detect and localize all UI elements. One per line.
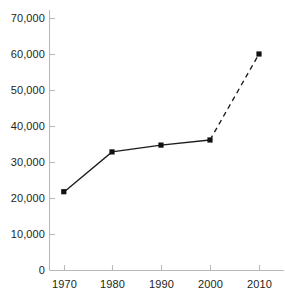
chart-plot-area <box>0 0 285 295</box>
y-axis-label-50000: 50,000 <box>0 85 45 96</box>
y-axis-label-40000: 40,000 <box>0 121 45 132</box>
line-chart: 70,000 60,000 50,000 40,000 30,000 20,00… <box>0 0 285 295</box>
y-axis-label-60000: 60,000 <box>0 49 45 60</box>
x-axis-label-1980: 1980 <box>88 279 137 290</box>
data-point-2000 <box>207 137 212 142</box>
series-line-solid <box>64 140 210 192</box>
y-axis-label-70000: 70,000 <box>0 13 45 24</box>
y-axis-label-30000: 30,000 <box>0 157 45 168</box>
x-tick-marks <box>65 265 260 271</box>
data-point-1980 <box>109 149 114 154</box>
x-axis-label-1990: 1990 <box>137 279 186 290</box>
x-axis-label-2010: 2010 <box>235 279 284 290</box>
y-tick-marks <box>50 19 56 235</box>
data-point-1970 <box>61 189 66 194</box>
data-point-2010 <box>256 51 261 56</box>
y-axis-label-20000: 20,000 <box>0 193 45 204</box>
y-axis-label-10000: 10,000 <box>0 229 45 240</box>
data-point-1990 <box>158 143 163 148</box>
series-line-dashed <box>210 54 259 140</box>
y-axis-label-0: 0 <box>0 265 45 276</box>
x-axis-label-2000: 2000 <box>186 279 235 290</box>
x-axis-label-1970: 1970 <box>40 279 89 290</box>
series-markers <box>61 51 261 194</box>
